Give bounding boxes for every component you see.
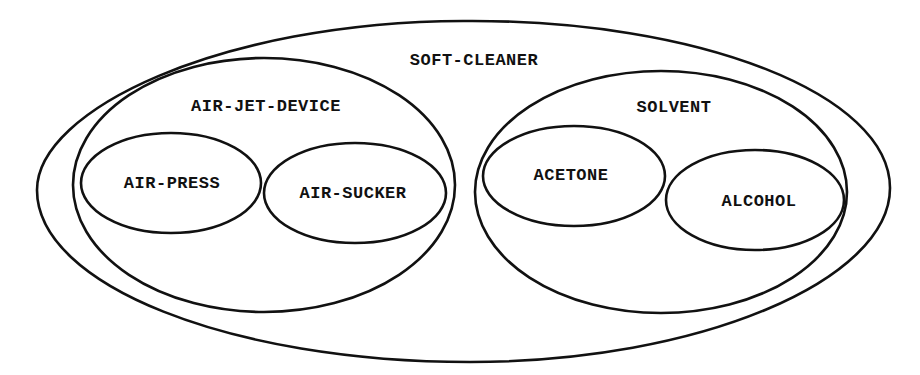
set-air-sucker: AIR-SUCKER	[264, 143, 446, 243]
set-alcohol: ALCOHOL	[666, 150, 844, 250]
euler-diagram: SOFT-CLEANER AIR-JET-DEVICE AIR-PRESS AI…	[0, 0, 920, 375]
set-label-air-press: AIR-PRESS	[124, 174, 220, 193]
set-label-solvent: SOLVENT	[637, 98, 712, 117]
set-acetone: ACETONE	[483, 126, 665, 226]
set-label-air-sucker: AIR-SUCKER	[299, 184, 406, 203]
set-label-alcohol: ALCOHOL	[722, 192, 797, 211]
set-label-soft-cleaner: SOFT-CLEANER	[410, 51, 539, 70]
set-air-press: AIR-PRESS	[81, 133, 261, 233]
set-label-acetone: ACETONE	[534, 166, 609, 185]
set-label-air-jet-device: AIR-JET-DEVICE	[191, 97, 341, 116]
